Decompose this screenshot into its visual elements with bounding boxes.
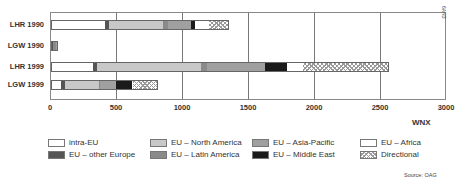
x-tick: 2500 bbox=[372, 103, 389, 112]
bar-segment bbox=[209, 20, 229, 30]
legend-item: EU – Africa bbox=[360, 138, 440, 147]
bar-segment bbox=[195, 20, 210, 30]
row-label: LGW 1990 bbox=[0, 41, 44, 50]
bar-segment bbox=[207, 62, 265, 72]
x-tick: 1500 bbox=[240, 103, 257, 112]
gridline bbox=[380, 13, 381, 99]
legend-swatch bbox=[360, 151, 377, 159]
x-tick: 3000 bbox=[438, 103, 455, 112]
legend-swatch bbox=[48, 139, 65, 147]
bar-segment bbox=[100, 80, 117, 90]
bar-segment bbox=[51, 62, 93, 72]
row-label: LHR 1999 bbox=[0, 62, 44, 71]
row-label: LGW 1999 bbox=[0, 80, 44, 89]
legend-swatch bbox=[48, 151, 65, 159]
bar-segment bbox=[116, 80, 132, 90]
x-tick: 2000 bbox=[306, 103, 323, 112]
bar-segment bbox=[109, 20, 163, 30]
legend-item: EU – Middle East bbox=[252, 150, 360, 159]
bar-segment bbox=[97, 62, 201, 72]
legend-label: EU – Africa bbox=[381, 138, 421, 147]
x-tick: 500 bbox=[110, 103, 123, 112]
legend-swatch bbox=[150, 139, 167, 147]
bar-segment bbox=[303, 62, 389, 72]
corner-tag: 6AN3 bbox=[441, 6, 447, 19]
legend-item: EU – North America bbox=[150, 138, 252, 147]
legend-label: Directional bbox=[381, 150, 419, 159]
legend: intra-EUEU – North AmericaEU – Asia-Paci… bbox=[48, 138, 440, 159]
stacked-bar bbox=[51, 62, 389, 72]
stacked-bar bbox=[51, 20, 229, 30]
stacked-bar bbox=[51, 41, 58, 51]
bar-segment bbox=[287, 62, 303, 72]
x-axis-label: WNX bbox=[412, 118, 431, 127]
bar-segment bbox=[51, 80, 61, 90]
legend-label: EU – other Europe bbox=[69, 150, 135, 159]
legend-swatch bbox=[252, 139, 269, 147]
row-label: LHR 1990 bbox=[0, 20, 44, 29]
legend-item: EU – Latin America bbox=[150, 150, 252, 159]
legend-swatch bbox=[150, 151, 167, 159]
legend-label: EU – North America bbox=[171, 138, 242, 147]
legend-item: EU – other Europe bbox=[48, 150, 150, 159]
bar-segment bbox=[168, 20, 190, 30]
legend-swatch bbox=[360, 139, 377, 147]
gridline bbox=[248, 13, 249, 99]
legend-label: EU – Asia-Pacific bbox=[273, 138, 334, 147]
legend-item: Directional bbox=[360, 150, 440, 159]
bar-segment bbox=[133, 80, 157, 90]
bar-segment bbox=[51, 20, 105, 30]
legend-swatch bbox=[252, 151, 269, 159]
x-tick: 0 bbox=[48, 103, 52, 112]
legend-item: EU – Asia-Pacific bbox=[252, 138, 360, 147]
legend-label: EU – Middle East bbox=[273, 150, 335, 159]
plot-area bbox=[50, 12, 446, 100]
legend-item: intra-EU bbox=[48, 138, 150, 147]
x-tick: 1000 bbox=[174, 103, 191, 112]
legend-label: intra-EU bbox=[69, 138, 98, 147]
bar-segment bbox=[265, 62, 287, 72]
bar-segment bbox=[57, 41, 58, 51]
bar-segment bbox=[65, 80, 99, 90]
legend-label: EU – Latin America bbox=[171, 150, 239, 159]
source-note: Source: OAG bbox=[404, 172, 437, 178]
stacked-bar bbox=[51, 80, 158, 90]
gridline bbox=[314, 13, 315, 99]
